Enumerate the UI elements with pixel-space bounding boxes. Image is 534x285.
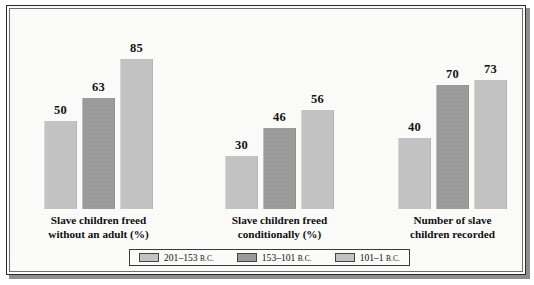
bar-value-label: 70 [446, 67, 459, 82]
bar-value-label: 56 [311, 92, 324, 107]
bar-rect [398, 138, 431, 209]
bar: 50 [44, 121, 77, 209]
group-label: Slave children freedwithout an adult (%) [22, 214, 175, 241]
bar-rect [263, 128, 296, 209]
bar-value-label: 40 [408, 120, 421, 135]
legend-item-3: 101–1 B.C. [335, 252, 400, 263]
legend-label: 101–1 B.C. [360, 252, 400, 263]
legend-label: 201–153 B.C. [164, 252, 214, 263]
bar-rect [82, 98, 115, 209]
bar: 70 [436, 85, 469, 209]
legend-item-1: 201–153 B.C. [139, 252, 214, 263]
bar-rect [120, 59, 153, 209]
legend-swatch [139, 253, 159, 262]
bar-value-label: 46 [273, 110, 286, 125]
legend-era-suffix: B.C. [298, 254, 312, 263]
bar-value-label: 63 [92, 80, 105, 95]
legend-label: 153–101 B.C. [262, 252, 312, 263]
bar: 73 [474, 80, 507, 209]
legend-swatch [237, 253, 257, 262]
bar-rect [474, 80, 507, 209]
bar-value-label: 85 [130, 41, 143, 56]
bar-rect [44, 121, 77, 209]
bar-value-label: 30 [235, 138, 248, 153]
legend-item-2: 153–101 B.C. [237, 252, 312, 263]
chart-legend: 201–153 B.C.153–101 B.C.101–1 B.C. [129, 249, 410, 266]
bar-value-label: 50 [54, 103, 67, 118]
bar-rect [225, 156, 258, 209]
group-label: Slave children freedconditionally (%) [203, 214, 356, 241]
legend-era-suffix: B.C. [386, 254, 400, 263]
legend-swatch [335, 253, 355, 262]
group-label: Number of slavechildren recorded [376, 214, 529, 241]
group-label-line: without an adult (%) [22, 228, 175, 242]
bar: 30 [225, 156, 258, 209]
group-label-line: Slave children freed [22, 214, 175, 228]
group-label-line: children recorded [376, 228, 529, 242]
bar-rect [436, 85, 469, 209]
group-label-line: Number of slave [376, 214, 529, 228]
group-label-line: Slave children freed [203, 214, 356, 228]
chart-figure: 506385Slave children freedwithout an adu… [0, 0, 534, 285]
plot-area: 506385Slave children freedwithout an adu… [7, 6, 525, 274]
bar: 46 [263, 128, 296, 209]
chart-frame: 506385Slave children freedwithout an adu… [6, 5, 526, 275]
bar: 63 [82, 98, 115, 209]
bar-value-label: 73 [484, 62, 497, 77]
bar: 56 [301, 110, 334, 209]
bar: 40 [398, 138, 431, 209]
legend-era-suffix: B.C. [200, 254, 214, 263]
bar-rect [301, 110, 334, 209]
bar: 85 [120, 59, 153, 209]
group-label-line: conditionally (%) [203, 228, 356, 242]
